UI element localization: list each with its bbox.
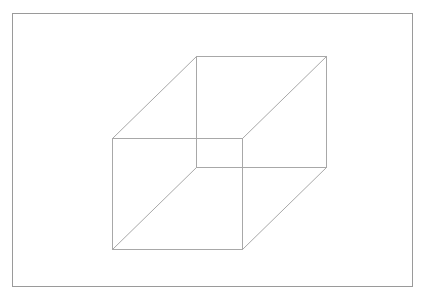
outer-border-rectangle	[13, 14, 413, 287]
connector-top-left	[113, 57, 197, 139]
connector-bottom-right	[243, 168, 327, 250]
cube-edge-group	[113, 57, 327, 250]
wireframe-cube-drawing	[0, 0, 426, 298]
connector-top-right	[243, 57, 327, 139]
figure-canvas	[0, 0, 426, 298]
connector-bottom-left	[113, 168, 197, 250]
